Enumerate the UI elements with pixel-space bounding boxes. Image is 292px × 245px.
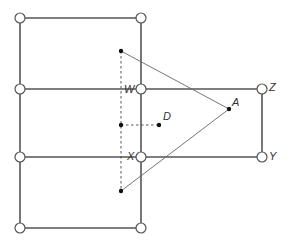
node-top-right [136, 13, 146, 23]
node-upper-center [136, 84, 146, 94]
node-lower-left [15, 152, 25, 162]
label-x: X [126, 150, 135, 162]
point-bottom [119, 189, 123, 193]
prism-net-diagram: W X D A Z Y [0, 0, 292, 245]
point-middle [119, 123, 123, 127]
label-a: A [231, 96, 239, 108]
node-upper-left [15, 84, 25, 94]
node-bottom-right [136, 223, 146, 233]
node-y [257, 152, 267, 162]
node-z [257, 84, 267, 94]
point-d [157, 123, 161, 127]
label-d: D [163, 110, 171, 122]
line-top-to-a [121, 51, 229, 109]
label-y: Y [269, 150, 277, 162]
node-top-left [15, 13, 25, 23]
label-z: Z [268, 81, 277, 93]
line-bottom-to-a [121, 109, 229, 191]
node-lower-center [136, 152, 146, 162]
point-top [119, 49, 123, 53]
point-a [227, 107, 231, 111]
node-bottom-left [15, 223, 25, 233]
label-w: W [124, 83, 136, 95]
